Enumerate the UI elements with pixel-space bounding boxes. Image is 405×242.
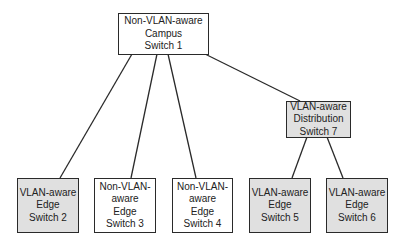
link-s1-s3 <box>131 54 157 178</box>
node-label: Switch 4 <box>184 218 222 231</box>
link-s7-s5 <box>292 137 307 178</box>
node-label: VLAN-aware <box>329 187 386 200</box>
node-edge-switch-3: Non-VLAN- aware Edge Switch 3 <box>94 178 156 233</box>
node-edge-switch-4: Non-VLAN- aware Edge Switch 4 <box>172 178 233 233</box>
node-label: Switch 5 <box>261 212 299 225</box>
link-s1-s2 <box>60 54 132 178</box>
node-label: VLAN-aware <box>290 101 347 114</box>
node-edge-switch-5: VLAN-aware Edge Switch 5 <box>249 178 311 233</box>
node-label: Switch 2 <box>29 212 67 225</box>
node-edge-switch-2: VLAN-aware Edge Switch 2 <box>17 178 79 233</box>
node-label: Switch 6 <box>338 212 376 225</box>
node-label: Switch 3 <box>106 218 144 231</box>
node-label: Switch 1 <box>145 40 183 53</box>
node-label: Edge <box>113 206 136 219</box>
node-label: Campus <box>145 28 182 41</box>
node-label: VLAN-aware <box>252 187 309 200</box>
link-s1-s7 <box>205 54 300 101</box>
node-label: Edge <box>345 199 368 212</box>
node-label: Distribution <box>293 113 343 126</box>
node-label: Non-VLAN- <box>99 181 150 194</box>
node-campus-switch-1: Non-VLAN-aware Campus Switch 1 <box>118 13 209 55</box>
node-label: aware <box>189 193 216 206</box>
node-label: Edge <box>36 199 59 212</box>
node-label: Edge <box>191 206 214 219</box>
link-s7-s6 <box>327 137 343 178</box>
node-label: Switch 7 <box>300 126 338 139</box>
node-distribution-switch-7: VLAN-aware Distribution Switch 7 <box>286 101 351 138</box>
node-label: Non-VLAN- <box>177 181 228 194</box>
node-label: Non-VLAN-aware <box>124 15 202 28</box>
node-edge-switch-6: VLAN-aware Edge Switch 6 <box>326 178 388 233</box>
node-label: Edge <box>268 199 291 212</box>
node-label: VLAN-aware <box>20 187 77 200</box>
node-label: aware <box>111 193 138 206</box>
link-s1-s4 <box>168 54 196 178</box>
